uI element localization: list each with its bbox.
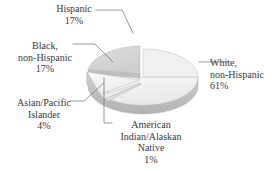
slice-label-asian-name-1: Asian/Pacific (0, 97, 88, 109)
slice-label-black-name-1: Black, (2, 40, 88, 52)
slice-label-black-name-2: non-Hispanic (2, 52, 88, 64)
slice-label-black: Black, non-Hispanic 17% (2, 40, 88, 75)
slice-label-black-value: 17% (2, 63, 88, 75)
slice-label-american-indian: American Indian/Alaskan Native 1% (108, 119, 194, 165)
slice-label-white-value: 61% (210, 80, 276, 92)
slice-label-hispanic-value: 17% (38, 15, 110, 27)
slice-label-american-indian-name-2: Indian/Alaskan (108, 131, 194, 143)
slice-label-white-name-2: non-Hispanic (210, 69, 276, 81)
slice-label-white-name-1: White, (210, 57, 276, 69)
slice-hispanic-top (88, 46, 140, 74)
slice-label-asian: Asian/Pacific Islander 4% (0, 97, 88, 132)
slice-label-hispanic-name: Hispanic (38, 3, 110, 15)
slice-label-american-indian-name-1: American (108, 119, 194, 131)
slice-label-asian-name-2: Islander (0, 109, 88, 121)
slice-label-hispanic: Hispanic 17% (38, 3, 110, 26)
slice-label-american-indian-value: 1% (108, 154, 194, 166)
slice-label-asian-value: 4% (0, 120, 88, 132)
slice-label-american-indian-name-3: Native (108, 142, 194, 154)
slice-white-top-upper (143, 49, 198, 77)
pie-chart-figure: Hispanic 17% Black, non-Hispanic 17% Asi… (0, 0, 277, 171)
slice-label-white: White, non-Hispanic 61% (210, 57, 276, 92)
